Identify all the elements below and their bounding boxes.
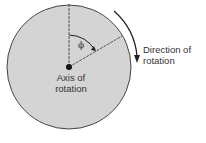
direction-label-line2: rotation — [143, 55, 191, 66]
rotation-arrowhead-icon — [134, 55, 140, 63]
diagram-canvas: ϕ — [0, 0, 206, 143]
direction-label-line1: Direction of — [143, 44, 191, 55]
axis-label-line1: Axis of — [49, 72, 93, 83]
axis-of-rotation-label: Axis of rotation — [49, 72, 93, 94]
axis-label-line2: rotation — [49, 83, 93, 94]
direction-of-rotation-label: Direction of rotation — [143, 44, 191, 66]
phi-symbol: ϕ — [78, 40, 84, 50]
axis-point — [66, 64, 72, 70]
